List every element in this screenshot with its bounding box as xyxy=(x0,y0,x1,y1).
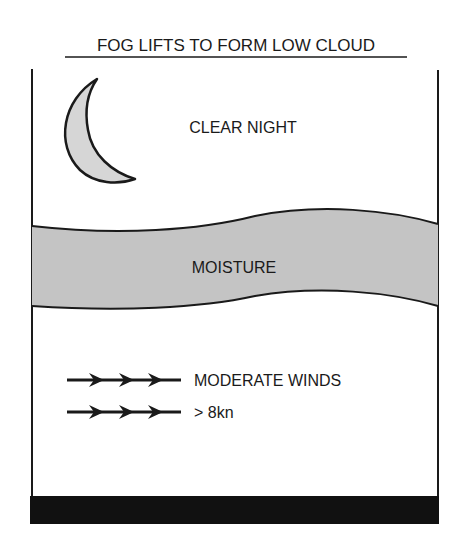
moisture-label: MOISTURE xyxy=(192,259,276,276)
diagram-title: FOG LIFTS TO FORM LOW CLOUD xyxy=(97,36,375,55)
wind-speed-label: > 8kn xyxy=(194,404,234,421)
fog-diagram: FOG LIFTS TO FORM LOW CLOUD CLEAR NIGHT … xyxy=(0,0,463,537)
crescent-moon-icon xyxy=(65,79,135,182)
clear-night-label: CLEAR NIGHT xyxy=(189,119,297,136)
ground-surface xyxy=(30,496,439,524)
wind-arrows-row-2 xyxy=(67,405,181,419)
wind-arrows-row-1 xyxy=(67,373,181,387)
moderate-winds-label: MODERATE WINDS xyxy=(194,372,341,389)
